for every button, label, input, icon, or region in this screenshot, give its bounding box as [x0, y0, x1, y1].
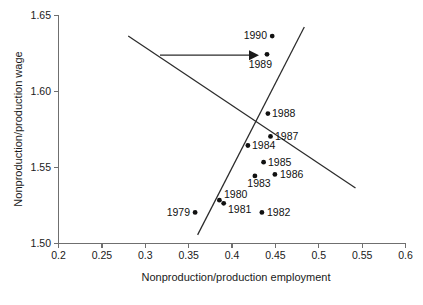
y-tick-label-1-55: 1.55	[31, 161, 52, 173]
data-point-label-1990: 1990	[244, 29, 268, 41]
data-point-label-1983: 1983	[247, 177, 271, 189]
data-point-label-1984: 1984	[252, 139, 276, 151]
x-tick-label-0-4: 0.4	[225, 249, 240, 261]
x-tick-label-0-55: 0.55	[352, 249, 373, 261]
data-point-1984	[246, 143, 251, 148]
data-point-label-1987: 1987	[275, 130, 299, 142]
x-ticks-group: 0.2 0.25 0.3 0.35 0.4 0.45 0.5 0.55 0.6	[51, 244, 413, 262]
data-point-label-1979: 1979	[167, 206, 191, 218]
data-point-label-1985: 1985	[268, 156, 292, 168]
data-point-label-1980: 1980	[224, 188, 248, 200]
data-point-1989	[265, 52, 270, 57]
data-point-1990	[270, 34, 275, 39]
x-tick-label-0-35: 0.35	[178, 249, 199, 261]
data-point-label-1981: 1981	[228, 203, 252, 215]
y-tick-label-1-65: 1.65	[31, 9, 52, 21]
data-point-1979	[193, 210, 198, 215]
data-point-1981	[221, 201, 226, 206]
x-tick-label-0-45: 0.45	[265, 249, 286, 261]
chart-figure: 1.50 1.55 1.60 1.65 0.2 0.25 0.3 0.35 0.…	[0, 0, 423, 305]
data-point-label-1982: 1982	[267, 206, 291, 218]
labor-demand-line	[128, 36, 355, 188]
data-point-label-1986: 1986	[280, 168, 304, 180]
y-ticks-group: 1.50 1.55 1.60 1.65	[31, 9, 59, 249]
data-point-labels-group: 1979 1980 1981 1982 1983 1984 1985 1986 …	[167, 29, 304, 218]
x-tick-label-0-2: 0.2	[51, 249, 66, 261]
data-point-1988	[266, 111, 271, 116]
x-tick-label-0-25: 0.25	[92, 249, 113, 261]
data-point-1985	[261, 160, 266, 165]
data-point-label-1989: 1989	[249, 58, 273, 70]
data-point-1982	[260, 210, 265, 215]
x-tick-label-0-5: 0.5	[311, 249, 326, 261]
shift-arrow	[160, 50, 259, 60]
y-tick-label-1-60: 1.60	[31, 85, 52, 97]
data-point-1986	[273, 172, 278, 177]
data-point-1980	[217, 198, 222, 203]
x-axis-title: Nonproduction/production employment	[142, 271, 331, 283]
scatter-plot-svg: 1.50 1.55 1.60 1.65 0.2 0.25 0.3 0.35 0.…	[0, 0, 423, 305]
y-tick-label-1-50: 1.50	[31, 237, 52, 249]
x-tick-label-0-6: 0.6	[398, 249, 413, 261]
x-tick-label-0-3: 0.3	[138, 249, 153, 261]
y-axis-title: Nonproduction/production wage	[12, 51, 24, 206]
data-point-label-1988: 1988	[272, 107, 296, 119]
